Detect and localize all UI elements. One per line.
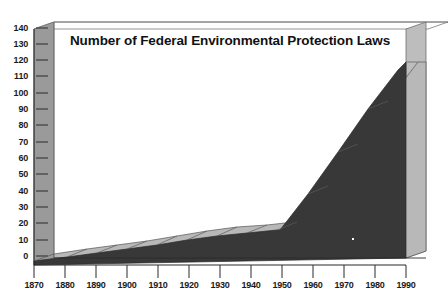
y-tick-label: 100 — [2, 89, 28, 98]
wall-top-bevel — [34, 22, 448, 29]
x-tick-label: 1990 — [386, 281, 426, 290]
chart-container: 140 130 120 110 100 90 80 70 60 50 40 30… — [0, 0, 448, 299]
y-tick-label: 140 — [2, 24, 28, 33]
y-tick-label: 110 — [2, 72, 28, 81]
y-tick-label: 80 — [2, 121, 28, 130]
y-tick-label: 40 — [2, 187, 28, 196]
y-tick-label: 130 — [2, 40, 28, 49]
scan-speck — [352, 238, 354, 240]
axis-wall-left — [34, 22, 54, 265]
y-tick-label: 90 — [2, 105, 28, 114]
y-tick-label: 20 — [2, 219, 28, 228]
y-tick-label: 0 — [2, 252, 28, 261]
x-axis-ticks — [34, 265, 406, 278]
y-tick-label: 30 — [2, 203, 28, 212]
chart-title: Number of Federal Environmental Protecti… — [60, 33, 400, 48]
y-tick-label: 70 — [2, 138, 28, 147]
y-tick-label: 120 — [2, 56, 28, 65]
y-tick-label: 10 — [2, 236, 28, 245]
y-tick-label: 50 — [2, 170, 28, 179]
y-tick-label: 60 — [2, 154, 28, 163]
